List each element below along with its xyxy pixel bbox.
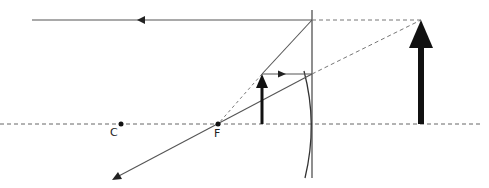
point-f-dot bbox=[216, 122, 221, 127]
arrowhead-down-left-icon bbox=[112, 172, 122, 180]
arrowhead-left-icon bbox=[137, 16, 145, 24]
dashed-line-object-to-focus bbox=[218, 74, 262, 124]
label-c: C bbox=[110, 126, 118, 139]
ray-diagram: C F bbox=[0, 0, 489, 188]
virtual-ray-diagonal bbox=[312, 20, 421, 74]
object-arrow-head-icon bbox=[256, 74, 268, 88]
reflected-ray-through-focus bbox=[115, 74, 312, 178]
incident-ray-diagonal bbox=[262, 20, 312, 74]
label-f: F bbox=[214, 127, 220, 140]
arrowhead-right-icon bbox=[278, 71, 286, 78]
point-c-dot bbox=[119, 122, 124, 127]
